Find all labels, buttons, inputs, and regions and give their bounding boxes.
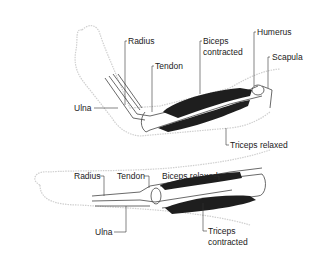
label-biceps-relaxed: Biceps relaxed [162, 171, 218, 181]
label-tendon-top: Tendon [155, 61, 183, 71]
bottom-arm-skin [35, 150, 270, 225]
diagram-artwork [0, 0, 324, 255]
label-radius-bottom: Radius [74, 171, 100, 181]
label-ulna-top: Ulna [74, 103, 91, 113]
top-arm-skin [75, 26, 280, 136]
label-biceps-top-line2: contracted [203, 47, 243, 57]
label-scapula: Scapula [272, 52, 303, 62]
label-ulna-bottom: Ulna [95, 227, 112, 237]
label-triceps-bottom-line2: contracted [208, 237, 248, 247]
label-triceps-relaxed: Triceps relaxed [230, 140, 288, 150]
label-triceps-bottom-line1: Triceps [208, 226, 236, 236]
arm-muscle-diagram: Radius Tendon Biceps contracted Humerus … [0, 0, 324, 255]
label-biceps-top-line1: Biceps [203, 36, 229, 46]
label-humerus: Humerus [257, 27, 291, 37]
label-tendon-bottom: Tendon [117, 171, 145, 181]
label-radius-top: Radius [128, 36, 154, 46]
top-arm-muscles [158, 88, 252, 132]
